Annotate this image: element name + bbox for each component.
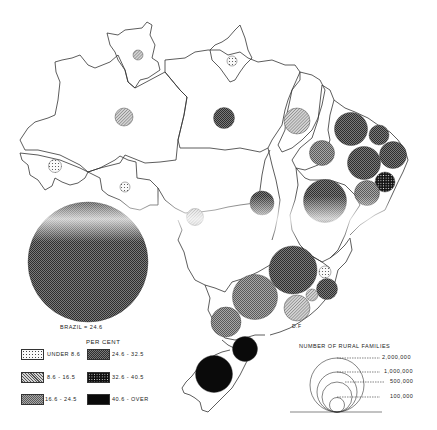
symbol-guanabara (306, 289, 318, 301)
symbol-rondonia (120, 182, 130, 192)
symbol-minas-gerais (269, 246, 317, 294)
legend-label-40-6-over: 40.6 - OVER (112, 396, 149, 402)
legend-label-16-6-24-5: 16.6 - 24.5 (45, 396, 77, 402)
symbol-santa-catarina (233, 337, 258, 362)
symbol-parana (211, 307, 241, 337)
size-label-2000000: 2,000,000 (382, 354, 411, 360)
legend-swatch-16-6-24-5 (21, 394, 44, 405)
legend-label-8-6-16-5: 8.6 - 16.5 (47, 374, 75, 380)
size-legend-title: NUMBER OF RURAL FAMILIES (299, 343, 390, 349)
symbol-para (214, 108, 235, 129)
legend-swatch-under-8-6 (21, 349, 44, 360)
symbol-ceara (335, 113, 368, 146)
symbol-rio-grande-do-norte (369, 125, 389, 145)
symbol-sao-paulo (233, 275, 278, 320)
df-label: D.F (292, 323, 302, 329)
symbol-maranhao (284, 108, 310, 134)
symbol-df-area (284, 295, 310, 321)
symbol-piaui (310, 141, 335, 166)
symbol-roraima (133, 50, 143, 60)
brazil-rural-families-map (0, 0, 437, 430)
symbol-espirito-santo (319, 266, 331, 278)
size-legend (290, 358, 385, 413)
legend-title: PER CENT (86, 339, 120, 345)
symbol-rio-de-janeiro (317, 279, 338, 300)
symbol-amazonas (115, 108, 133, 126)
legend-swatch-24-6-32-5 (87, 349, 110, 360)
legend-swatch-40-6-over (87, 394, 110, 405)
legend-swatch-8-6-16-5 (21, 372, 44, 383)
legend-label-32-6-40-5: 32.6 - 40.5 (112, 374, 144, 380)
legend-label-24-6-32-5: 24.6 - 32.5 (112, 351, 144, 357)
symbol-paraiba (380, 142, 407, 169)
symbol-amapa (227, 56, 237, 66)
symbol-pernambuco (348, 147, 381, 180)
symbol-acre (49, 160, 62, 173)
scan-fade-band (0, 196, 437, 242)
size-label-500000: 500,000 (390, 378, 413, 384)
symbol-rio-grande-do-sul (196, 356, 233, 393)
size-label-1000000: 1,000,000 (384, 368, 413, 374)
legend-label-under-8-6: UNDER 8.6 (47, 351, 80, 357)
size-label-100000: 100,000 (390, 393, 413, 399)
legend-swatch-32-6-40-5 (87, 372, 110, 383)
brazil-label: BRAZIL = 24.6 (60, 324, 103, 330)
